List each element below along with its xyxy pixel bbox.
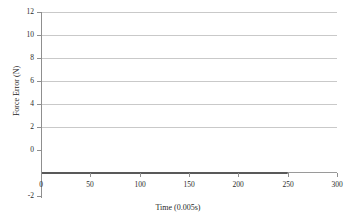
x-tick-label-200: 200	[218, 180, 258, 189]
x-tick-50	[90, 173, 91, 177]
y-tick-neg2	[37, 196, 41, 197]
y-tick-label-neg2: -2	[4, 192, 34, 200]
x-tick-150	[189, 173, 190, 177]
plot-area	[41, 12, 337, 173]
y-tick-6	[37, 81, 41, 82]
x-tick-200	[238, 173, 239, 177]
y-tick-10	[37, 35, 41, 36]
y-axis-title: Force Error (N)	[12, 36, 22, 146]
y-axis-line	[41, 12, 42, 198]
x-tick-0	[41, 173, 42, 177]
y-tick-2	[37, 127, 41, 128]
x-axis-title: Time (0.005s)	[0, 203, 356, 213]
x-tick-250	[288, 173, 289, 177]
x-tick-label-300: 300	[317, 180, 356, 189]
y-tick-label-12: 12	[4, 8, 34, 16]
y-tick-12	[37, 12, 41, 13]
x-tick-label-50: 50	[70, 180, 110, 189]
y-tick-8	[37, 58, 41, 59]
x-tick-label-250: 250	[268, 180, 308, 189]
x-tick-300	[337, 173, 338, 177]
x-tick-label-0: 0	[21, 180, 61, 189]
x-tick-label-150: 150	[169, 180, 209, 189]
y-tick-0	[37, 150, 41, 151]
series-force-error	[41, 12, 337, 173]
x-tick-label-100: 100	[120, 180, 160, 189]
x-tick-100	[140, 173, 141, 177]
y-tick-label-0: 0	[4, 146, 34, 154]
y-tick-4	[37, 104, 41, 105]
chart-container: 12 10 8 6 4 2 0 -2 0 50 100 150 200 250 …	[0, 0, 356, 219]
